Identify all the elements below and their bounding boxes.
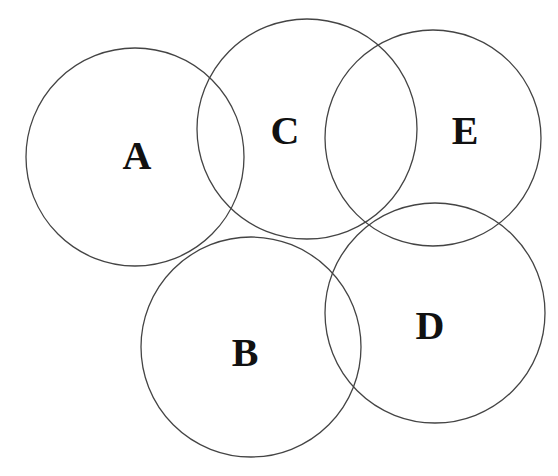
circle-c: C [197, 19, 417, 239]
circle-c-label: C [271, 108, 300, 153]
circle-a: A [26, 48, 244, 266]
circle-a-label: A [123, 133, 152, 178]
circle-e: E [325, 30, 541, 246]
circle-diagram: A C E B D [0, 0, 558, 476]
circle-d-label: D [416, 303, 445, 348]
circle-e-outline [325, 30, 541, 246]
circle-b-label: B [232, 330, 259, 375]
circle-d: D [325, 203, 545, 423]
circle-c-outline [197, 19, 417, 239]
circle-b: B [141, 237, 361, 457]
circle-e-label: E [452, 108, 479, 153]
